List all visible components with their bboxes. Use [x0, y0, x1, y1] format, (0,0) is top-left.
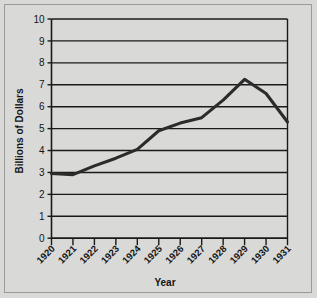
- y-tick-label-3: 3: [39, 167, 45, 178]
- x-tick-label-1925: 1925: [141, 242, 164, 265]
- y-tick-label-4: 4: [39, 145, 45, 156]
- x-axis-title: Year: [154, 277, 175, 288]
- y-tick-label-2: 2: [39, 189, 45, 200]
- y-tick-label-7: 7: [39, 79, 45, 90]
- y-tick-label-9: 9: [39, 36, 45, 47]
- y-tick-label-6: 6: [39, 101, 45, 112]
- y-tick-label-5: 5: [39, 123, 45, 134]
- x-tick-label-1923: 1923: [99, 243, 122, 266]
- x-tick-label-1926: 1926: [163, 243, 186, 266]
- y-axis-tick-labels-group: 012345678910: [33, 14, 45, 244]
- x-axis-tick-labels-group: 1920192119221923192419251926192719281929…: [34, 242, 293, 265]
- x-tick-label-1920: 1920: [34, 243, 57, 266]
- x-tick-label-1927: 1927: [184, 243, 207, 266]
- x-tick-label-1929: 1929: [227, 243, 250, 266]
- y-tick-label-1: 1: [39, 211, 45, 222]
- line-chart: 012345678910 192019211922192319241925192…: [0, 0, 317, 298]
- x-tick-label-1924: 1924: [120, 242, 143, 265]
- chart-figure: 012345678910 192019211922192319241925192…: [0, 0, 317, 298]
- y-tick-label-10: 10: [33, 14, 45, 25]
- x-tick-label-1921: 1921: [56, 242, 79, 265]
- x-tick-label-1922: 1922: [77, 243, 100, 266]
- y-tick-label-0: 0: [39, 233, 45, 244]
- y-axis-title: Billions of Dollars: [14, 88, 25, 173]
- x-axis-ticks-group: [52, 238, 288, 245]
- y-tick-label-8: 8: [39, 57, 45, 68]
- x-tick-label-1928: 1928: [206, 243, 229, 266]
- x-tick-label-1931: 1931: [270, 242, 293, 265]
- x-tick-label-1930: 1930: [249, 243, 272, 266]
